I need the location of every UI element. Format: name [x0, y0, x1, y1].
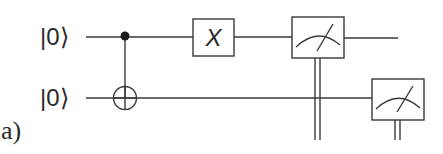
panel-label: a) [1, 116, 21, 145]
measurement-gate-qubit-1 [372, 79, 424, 120]
target-circle-plus-icon [114, 87, 137, 110]
qubit-0-initial-state: |0⟩ [40, 23, 69, 50]
classical-wire-0 [315, 58, 320, 140]
qubit-0-wire [86, 37, 398, 38]
x-gate: X [193, 19, 234, 56]
qubit-1-initial-state: |0⟩ [40, 84, 69, 111]
classical-wire-1 [395, 120, 400, 140]
cnot-gate [114, 32, 137, 110]
measurement-gate-qubit-0 [292, 17, 344, 58]
x-gate-label: X [204, 24, 222, 51]
control-dot-icon [121, 32, 130, 41]
quantum-circuit-diagram: |0⟩ |0⟩ a) X [0, 0, 443, 154]
